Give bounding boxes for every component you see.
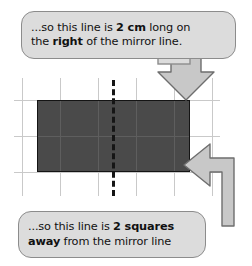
callout-bottom-line2-bold: away [28,235,60,248]
callout-right-distance: ...so this line is 2 cm long on the righ… [21,11,236,59]
callout-bottom-line2-suffix: from the mirror line [60,235,171,248]
callout-top-line2-prefix: the [31,35,53,48]
grid-vertical-line [22,78,23,196]
callout-top-line1-prefix: ...so this line is [31,21,116,34]
callout-top-line2-suffix: of the mirror line. [83,35,182,48]
callout-bottom-line1-bold: 2 squares [113,220,174,233]
callout-top-line1-bold: 2 cm [116,21,146,34]
callout-bottom-line1-prefix: ...so this line is [28,220,113,233]
illustration-canvas: ...so this line is 2 cm long on the righ… [0,0,252,266]
callout-right-distance-text: ...so this line is 2 cm long on the righ… [22,21,235,50]
mirror-line [112,80,115,196]
callout-top-line2-bold: right [53,35,83,48]
callout-squares-away-text: ...so this line is 2 squares away from t… [19,220,205,249]
callout-top-line1-suffix: long on [146,21,190,34]
callout-squares-away: ...so this line is 2 squares away from t… [18,211,206,258]
